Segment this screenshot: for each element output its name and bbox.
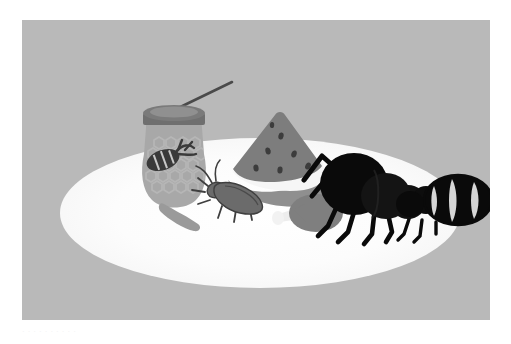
honey-jar: [142, 105, 206, 208]
ant-background-abdomen: [424, 175, 490, 225]
jar-lid: [143, 105, 205, 125]
scene-svg: [22, 20, 490, 320]
picnic-ants-illustration: [22, 20, 490, 320]
caption-text: · · · · · · · · · ·: [22, 326, 272, 338]
illustration-page: · · · · · · · · · ·: [0, 0, 511, 344]
ant-foreground-head: [396, 191, 424, 217]
